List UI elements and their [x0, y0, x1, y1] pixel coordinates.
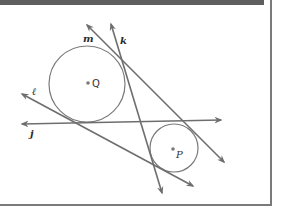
center-point-q	[86, 81, 90, 85]
label-q: Q	[92, 78, 100, 89]
tangent-lines-diagram: m k ℓ j Q P	[0, 0, 283, 212]
label-m: m	[83, 33, 94, 44]
line-l	[22, 94, 193, 186]
line-m	[87, 25, 224, 162]
label-p: P	[175, 149, 183, 160]
label-l: ℓ	[32, 86, 36, 97]
line-j	[22, 120, 221, 124]
label-k: k	[120, 35, 127, 46]
center-point-p	[171, 147, 175, 151]
label-j: j	[28, 128, 34, 139]
line-k	[111, 24, 162, 193]
